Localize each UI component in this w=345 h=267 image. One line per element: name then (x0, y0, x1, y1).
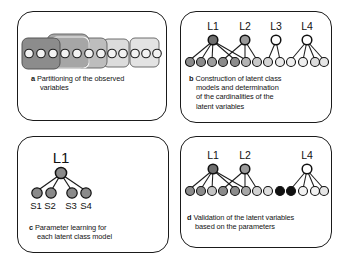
observed-nodes-d (186, 187, 329, 196)
observed-node (299, 187, 308, 196)
latent-node-L2 (240, 164, 250, 174)
observed-node (253, 187, 262, 196)
latent-nodes-d (208, 164, 312, 174)
observed-nodes-c (32, 188, 91, 198)
panel-a-caption-line2: variables (31, 83, 158, 92)
observed-labels-c: S1 S2 S3 S4 (30, 200, 92, 211)
observed-node (253, 58, 262, 67)
panel-a-caption-line1: Partitioning of the observed (37, 74, 124, 83)
latent-node-L1 (208, 164, 218, 174)
figure-canvas: a Partitioning of the observed variables… (0, 0, 345, 267)
observed-node-S1 (32, 188, 42, 198)
observed-node (276, 58, 285, 67)
observed-node (264, 58, 273, 67)
latent-node-L4 (302, 164, 312, 174)
observed-node (320, 187, 329, 196)
panel-b-diagram: L1 L2 L3 L4 (185, 18, 329, 70)
observed-node (320, 58, 329, 67)
observed-node (131, 49, 140, 58)
latent-label-L4: L4 (301, 20, 313, 32)
latent-label-L1: L1 (207, 149, 219, 161)
panel-d-label: d (187, 213, 191, 222)
latent-labels-b: L1 L2 L3 L4 (207, 20, 313, 32)
panel-a-caption: a Partitioning of the observed variables (31, 74, 158, 92)
observed-node (108, 49, 117, 58)
latent-node-L3 (271, 35, 281, 45)
observed-node (85, 49, 94, 58)
panel-d-caption: d Validation of the latent variables bas… (187, 213, 327, 231)
latent-label-L4: L4 (301, 149, 313, 161)
observed-node (219, 187, 228, 196)
latent-label-L3: L3 (270, 20, 282, 32)
observed-node (142, 49, 151, 58)
observed-node-S2 (46, 188, 56, 198)
observed-node-S3 (67, 188, 77, 198)
panel-c-caption-line1: Parameter learning for (35, 223, 106, 232)
observed-node-S4 (81, 188, 91, 198)
observed-node (197, 58, 206, 67)
panel-b-caption: b Construction of latent class models an… (189, 74, 327, 111)
panel-b-label: b (189, 74, 193, 83)
latent-label-L2: L2 (239, 149, 251, 161)
observed-node (311, 58, 320, 67)
observed-node (219, 58, 228, 67)
observed-node (287, 58, 296, 67)
observed-node (73, 49, 82, 58)
observed-node (231, 187, 240, 196)
latent-node-L2 (240, 35, 250, 45)
observed-node (311, 187, 320, 196)
panel-b-construction: L1 L2 L3 L4 (180, 11, 332, 123)
panel-b-caption-line1: Construction of latent class (195, 74, 281, 83)
observed-node (208, 58, 217, 67)
observed-node-rejected (287, 187, 296, 196)
panel-c-diagram: L1 S1 S2 S3 S4 (24, 143, 96, 215)
observed-node (231, 58, 240, 67)
panel-a-label: a (31, 74, 35, 83)
latent-node-L4 (302, 35, 312, 45)
observed-node-rejected (276, 187, 285, 196)
observed-node (208, 187, 217, 196)
panel-b-caption-line2: models and determination (189, 83, 327, 92)
observed-label-S3: S3 (65, 200, 77, 211)
observed-node (49, 49, 58, 58)
observed-label-S1: S1 (30, 200, 42, 211)
observed-node (61, 49, 70, 58)
latent-label-L1: L1 (53, 149, 70, 166)
panel-c-caption: c Parameter learning for each latent cla… (29, 223, 162, 241)
panel-c-parameter-learning: L1 S1 S2 S3 S4 (17, 136, 169, 253)
observed-node (186, 58, 195, 67)
latent-class-model-graphic-c: L1 S1 S2 S3 S4 (24, 143, 96, 215)
observed-node (242, 58, 251, 67)
observed-label-S4: S4 (80, 200, 92, 211)
partition-graphic (20, 32, 166, 76)
observed-node (186, 187, 195, 196)
latent-labels-d: L1 L2 L4 (207, 149, 313, 161)
latent-class-model-graphic-d: L1 L2 L4 (185, 147, 329, 199)
panel-c-label: c (29, 223, 33, 232)
observed-node (37, 49, 46, 58)
panel-c-caption-line2: each latent class model (29, 232, 162, 241)
observed-nodes-b (186, 58, 329, 67)
panel-d-validation: L1 L2 L4 (180, 136, 332, 248)
latent-label-L2: L2 (239, 20, 251, 32)
observed-label-S2: S2 (44, 200, 56, 211)
panel-b-caption-line4: latent variables (189, 102, 327, 111)
panel-a-partitioning: a Partitioning of the observed variables (17, 11, 167, 121)
panel-a-diagram (20, 32, 166, 76)
latent-nodes-b (208, 35, 312, 45)
observed-node (242, 187, 251, 196)
latent-node-L1 (55, 167, 66, 178)
panel-b-caption-line3: of the cardinalities of the (189, 92, 327, 101)
observed-node (97, 49, 106, 58)
observed-node (299, 58, 308, 67)
latent-class-model-graphic-b: L1 L2 L3 L4 (185, 18, 329, 70)
observed-node (25, 49, 34, 58)
observed-node (153, 49, 162, 58)
panel-d-caption-line2: based on the parameters (187, 222, 327, 231)
observed-node (197, 187, 206, 196)
observed-node (264, 187, 273, 196)
latent-node-L1 (208, 35, 218, 45)
panel-d-caption-line1: Validation of the latent variables (193, 213, 294, 222)
panel-d-diagram: L1 L2 L4 (185, 147, 329, 199)
observed-node (119, 49, 128, 58)
